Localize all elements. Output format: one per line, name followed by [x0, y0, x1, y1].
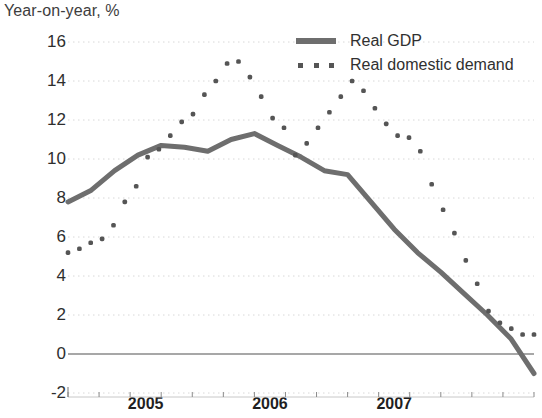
data-point — [339, 94, 344, 99]
data-point — [464, 258, 469, 263]
data-point — [509, 326, 514, 331]
data-point — [236, 59, 241, 64]
legend-label-real-domestic-demand: Real domestic demand — [350, 56, 514, 74]
data-point — [429, 182, 434, 187]
data-point — [157, 147, 162, 152]
data-point — [225, 61, 230, 66]
data-point — [532, 332, 537, 337]
data-point — [520, 332, 525, 337]
data-point — [452, 231, 457, 236]
data-point — [214, 79, 219, 84]
data-point — [373, 106, 378, 111]
data-point — [66, 250, 71, 255]
data-point — [486, 309, 491, 314]
data-point — [259, 94, 264, 99]
legend-label-real-gdp: Real GDP — [350, 32, 422, 50]
data-point — [202, 92, 207, 97]
legend-item-real-domestic-demand: Real domestic demand — [296, 54, 542, 76]
data-point — [179, 120, 184, 125]
data-point — [270, 116, 275, 121]
data-point — [111, 223, 116, 228]
data-point — [498, 321, 503, 326]
data-point — [123, 200, 128, 205]
data-point — [395, 133, 400, 138]
data-point — [248, 75, 253, 80]
data-point — [361, 89, 366, 94]
data-point — [100, 237, 105, 242]
data-point — [88, 241, 93, 246]
data-point — [77, 246, 82, 251]
data-point — [327, 110, 332, 115]
data-point — [316, 126, 321, 131]
data-point — [418, 149, 423, 154]
data-point — [304, 141, 309, 146]
legend-item-real-gdp: Real GDP — [296, 30, 542, 52]
data-point — [191, 112, 196, 117]
data-point — [475, 282, 480, 287]
chart-container: Year-on-year, % 1614121086420-2 20052006… — [0, 0, 542, 418]
series-line-real-gdp — [68, 134, 534, 374]
data-point — [168, 133, 173, 138]
data-point — [293, 153, 298, 158]
data-point — [134, 184, 139, 189]
data-point — [384, 122, 389, 127]
data-point — [407, 135, 412, 140]
data-point — [282, 126, 287, 131]
data-point — [441, 207, 446, 212]
dotted-line-icon — [296, 58, 336, 72]
solid-line-icon — [296, 34, 336, 48]
data-point — [145, 155, 150, 160]
chart-legend: Real GDP Real domestic demand — [296, 30, 542, 78]
data-point — [350, 79, 355, 84]
